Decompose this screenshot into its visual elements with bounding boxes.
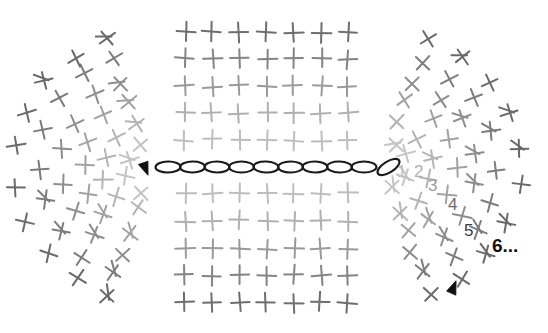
single-crochet-stitch (450, 45, 475, 70)
single-crochet-stitch (96, 147, 118, 168)
single-crochet-stitch (202, 239, 222, 258)
single-crochet-stitch (313, 76, 333, 96)
single-crochet-stitch (105, 126, 129, 149)
single-crochet-stitch (311, 265, 332, 285)
single-crochet-stitch (387, 201, 413, 227)
single-crochet-stitch (174, 76, 194, 96)
single-crochet-stitch (127, 132, 152, 157)
round-label-6: 6... (492, 236, 518, 255)
single-crochet-stitch (115, 88, 142, 115)
single-crochet-stitch (451, 107, 474, 130)
single-crochet-stitch (77, 131, 100, 154)
single-crochet-stitch (339, 22, 357, 41)
single-crochet-stitch (464, 173, 484, 194)
single-crochet-stitch (231, 130, 250, 150)
single-crochet-stitch (203, 49, 223, 68)
single-crochet-stitch (229, 210, 248, 229)
start-arrow-icon (136, 158, 153, 175)
single-crochet-stitch (311, 184, 331, 203)
single-crochet-stitch (416, 207, 440, 231)
end-arrow-icon (445, 281, 461, 298)
single-crochet-stitch (102, 46, 127, 70)
single-crochet-stitch (399, 71, 425, 97)
single-crochet-stitch (64, 47, 88, 71)
single-crochet-stitch (110, 242, 135, 267)
single-crochet-stitch (229, 104, 249, 123)
chain-stitch-oval (180, 161, 205, 173)
single-crochet-stitch (203, 130, 221, 149)
single-crochet-stitch (510, 139, 528, 157)
single-crochet-stitch (410, 258, 435, 283)
single-crochet-stitch (174, 265, 193, 285)
single-crochet-stitch (284, 48, 303, 68)
single-crochet-stitch (478, 71, 501, 94)
chain-stitch-oval (327, 161, 352, 173)
single-crochet-stitch (498, 102, 520, 124)
round-label-3: 3 (428, 177, 437, 194)
single-crochet-stitch (405, 127, 430, 151)
single-crochet-stitch (258, 212, 278, 231)
single-crochet-stitch (284, 103, 304, 123)
single-crochet-stitch (92, 104, 115, 127)
single-crochet-stitch (338, 266, 358, 285)
single-crochet-stitch (70, 246, 94, 270)
single-crochet-stitch (284, 294, 303, 313)
stitch-grid-layer (174, 21, 359, 313)
single-crochet-stitch (32, 118, 54, 140)
single-crochet-stitch (284, 131, 303, 151)
single-crochet-stitch (203, 184, 224, 203)
round-label-5: 5 (464, 222, 473, 239)
single-crochet-stitch (5, 135, 27, 156)
single-crochet-stitch (422, 107, 445, 130)
single-crochet-stitch (338, 212, 358, 232)
single-crochet-stitch (6, 179, 25, 197)
single-crochet-stitch (338, 50, 357, 69)
single-crochet-stitch (339, 102, 359, 122)
single-crochet-stitch (338, 77, 356, 96)
chain-stitch-oval (278, 161, 303, 172)
single-crochet-stitch (72, 61, 96, 85)
single-crochet-stitch (337, 294, 357, 313)
single-crochet-stitch (437, 67, 462, 91)
single-crochet-stitch (258, 184, 277, 204)
chain-stitch-oval (253, 161, 278, 173)
single-crochet-stitch (83, 224, 107, 247)
chain-stitch-oval (204, 161, 229, 172)
single-crochet-stitch (230, 183, 250, 202)
single-crochet-stitch (312, 48, 331, 67)
single-crochet-stitch (177, 22, 196, 41)
single-crochet-stitch (105, 185, 127, 208)
crochet-chart-diagram: 123456... (0, 0, 548, 333)
single-crochet-stitch (258, 130, 277, 149)
single-crochet-stitch (442, 245, 465, 269)
single-crochet-stitch (284, 238, 304, 258)
single-crochet-stitch (63, 111, 87, 135)
single-crochet-stitch (496, 212, 517, 234)
single-crochet-stitch (283, 184, 303, 203)
single-crochet-stitch (284, 211, 304, 231)
single-crochet-stitch (384, 108, 411, 135)
chain-stitch-oval (351, 161, 376, 172)
single-crochet-stitch (33, 70, 55, 92)
round-label-1: 1 (397, 163, 406, 180)
single-crochet-stitch (231, 292, 250, 311)
single-crochet-stitch (258, 103, 276, 122)
single-crochet-stitch (91, 203, 114, 227)
single-crochet-stitch (175, 292, 194, 311)
single-crochet-stitch (202, 103, 221, 122)
single-crochet-stitch (65, 265, 91, 291)
single-crochet-stitch (100, 260, 125, 285)
single-crochet-stitch (439, 129, 459, 149)
single-crochet-stitch (256, 22, 276, 42)
left-fan-layer (5, 26, 154, 309)
single-crochet-stitch (512, 174, 532, 194)
single-crochet-stitch (284, 22, 304, 42)
single-crochet-stitch (176, 103, 195, 122)
single-crochet-stitch (479, 191, 501, 214)
single-crochet-stitch (177, 183, 197, 203)
single-crochet-stitch (256, 293, 275, 312)
single-crochet-stitch (175, 238, 196, 258)
single-crochet-stitch (283, 75, 302, 95)
single-crochet-stitch (312, 23, 332, 43)
chart-canvas (0, 0, 548, 333)
